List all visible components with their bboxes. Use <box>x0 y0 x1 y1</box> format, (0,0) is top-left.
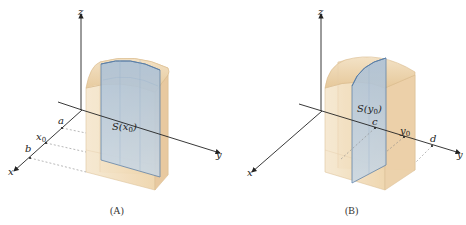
label-a: a <box>58 115 64 126</box>
tick-c <box>374 127 376 129</box>
x-axis-a <box>14 110 82 171</box>
y-label-b: y <box>456 149 463 160</box>
x-label-b: x <box>247 167 253 178</box>
x-label-a: x <box>8 166 14 177</box>
label-b: b <box>25 143 31 154</box>
dash-b <box>30 158 86 172</box>
z-label-b: z <box>317 6 324 17</box>
dash-x0 <box>46 143 86 152</box>
panel-b: z y x c y0 d S(y0) (B) <box>247 6 463 217</box>
y-axis-back-b <box>299 104 322 111</box>
diagram-canvas: z y x a x0 b S(x0) (A) <box>0 0 466 225</box>
dash-a <box>62 128 86 133</box>
label-x0: x0 <box>36 131 46 144</box>
caption-b: (B) <box>345 205 358 217</box>
panel-a: z y x a x0 b S(x0) (A) <box>8 6 222 217</box>
caption-a: (A) <box>110 205 124 217</box>
x-axis-b <box>252 111 322 172</box>
slice-s-y0 <box>352 58 386 183</box>
label-c: c <box>372 116 378 127</box>
y-axis-back-a <box>58 102 82 110</box>
tick-d <box>431 145 433 147</box>
tick-b <box>29 157 31 159</box>
label-d: d <box>430 133 436 144</box>
z-label-a: z <box>77 6 84 17</box>
dash-d <box>415 146 432 163</box>
tick-a <box>61 127 63 129</box>
y-label-a: y <box>215 149 222 160</box>
